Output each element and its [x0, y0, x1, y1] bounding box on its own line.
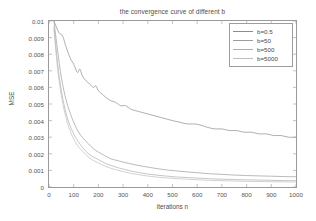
y-axis-tick-label: 0.009	[29, 34, 44, 41]
x-axis-tick-label: 900	[266, 191, 276, 198]
chart-title: the convergence curve of different b	[48, 8, 297, 15]
y-axis-tick-label: 0.004	[29, 117, 44, 124]
legend-line-swatch	[233, 58, 253, 59]
x-axis-tick-label: 0	[47, 191, 50, 198]
legend-item-1[interactable]: b=50	[233, 36, 289, 45]
legend-item-3[interactable]: b=5000	[233, 54, 289, 63]
y-axis-tick-label: 0.01	[32, 18, 44, 25]
y-axis-tick-label: 0.001	[29, 167, 44, 174]
legend-line-swatch	[233, 31, 253, 32]
y-axis-tick-label: 0.005	[29, 101, 44, 108]
x-axis-tick-label: 200	[93, 191, 103, 198]
x-axis-tick-label: 700	[217, 191, 227, 198]
x-axis-tick-label: 1000	[289, 191, 303, 198]
x-axis-tick-label: 100	[69, 191, 79, 198]
legend-item-2[interactable]: b=500	[233, 45, 289, 54]
legend-line-swatch	[233, 40, 253, 41]
x-axis-tick-labels: 01002003004005006007008009001000	[48, 191, 297, 203]
y-axis-tick-label: 0.002	[29, 150, 44, 157]
x-axis-tick-label: 300	[118, 191, 128, 198]
figure-canvas: the convergence curve of different b MSE…	[0, 0, 316, 221]
legend-item-label: b=5000	[257, 54, 278, 63]
x-axis-label: iterations n	[48, 203, 297, 210]
y-axis-tick-label: 0.008	[29, 51, 44, 58]
x-axis-tick-label: 600	[192, 191, 202, 198]
legend-item-label: b=0.5	[257, 27, 273, 36]
y-axis-tick-labels: 00.0010.0020.0030.0040.0050.0060.0070.00…	[0, 20, 44, 188]
legend-item-label: b=500	[257, 45, 274, 54]
y-axis-tick-label: 0	[41, 184, 44, 191]
y-axis-tick-label: 0.006	[29, 84, 44, 91]
legend-item-label: b=50	[257, 36, 271, 45]
legend-line-swatch	[233, 49, 253, 50]
legend-item-0[interactable]: b=0.5	[233, 27, 289, 36]
y-axis-tick-label: 0.003	[29, 134, 44, 141]
y-axis-tick-label: 0.007	[29, 67, 44, 74]
x-axis-tick-label: 400	[143, 191, 153, 198]
legend[interactable]: b=0.5b=50b=500b=5000	[229, 23, 293, 67]
x-axis-tick-label: 800	[241, 191, 251, 198]
x-axis-tick-label: 500	[167, 191, 177, 198]
